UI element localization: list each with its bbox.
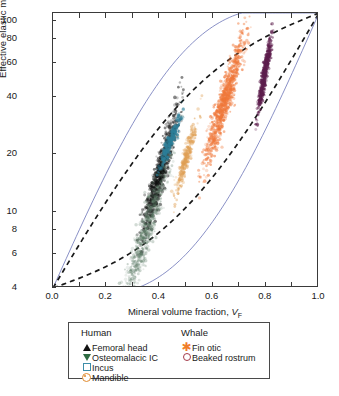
y-tick-mark [52,62,56,63]
legend-marker-triangle-up-icon [81,342,92,352]
y-tick-mark [52,211,56,212]
y-tick-mark [52,96,56,97]
y-tick-label: 80 [0,33,17,43]
x-tick-mark [158,282,159,287]
y-tick-label: 60 [0,57,17,67]
legend-item-incus[interactable]: Incus [81,362,114,372]
y-tick-label: 4 [0,282,17,292]
legend-item-osteomalacic-ic[interactable]: Osteomalacic IC [81,352,158,362]
legend-marker-open-diamond-icon [81,372,92,382]
x-axis-label: Mineral volume fraction, VF [52,306,318,319]
x-tick-mark [291,282,292,287]
y-tick-label: 100 [0,15,17,25]
x-tick-mark [79,282,80,287]
chart-figure: Effective elastic modulus, E (GPa) 46810… [0,0,339,396]
x-tick-mark [185,282,186,287]
x-tick-mark [238,282,239,287]
legend-group-title-human: Human [81,327,112,338]
legend-marker-triangle-down-icon [81,352,92,362]
legend-item-label: Beaked rostrum [192,353,256,363]
x-tick-mark [265,282,266,287]
legend-item-mandible[interactable]: Mandible [81,372,129,382]
y-tick-label: 10 [0,206,17,216]
x-tick-mark [212,282,213,287]
x-tick-label: 1.0 [298,290,338,301]
legend-marker-asterisk-icon: ✱ [181,342,192,352]
y-tick-mark [52,287,56,288]
plot-area [52,12,318,287]
x-tick-mark [105,282,106,287]
x-tick-mark [132,282,133,287]
x-tick-mark [79,13,80,18]
y-tick-label: 8 [0,224,17,234]
legend-group-title-whale: Whale [181,327,208,338]
legend-item-fin-otic[interactable]: ✱Fin otic [181,342,221,352]
y-tick-mark [52,229,56,230]
y-tick-mark [52,153,56,154]
x-tick-mark [158,13,159,18]
x-tick-mark [105,13,106,18]
x-tick-label: 0.6 [192,290,232,301]
legend-marker-open-circle-icon [181,352,192,362]
y-tick-mark [52,253,56,254]
scatter-series [254,22,274,131]
x-tick-mark [238,13,239,18]
y-tick-label: 6 [0,248,17,258]
y-tick-label: 20 [0,148,17,158]
legend-marker-open-square-icon [81,362,92,372]
x-tick-label: 0.8 [245,290,285,301]
y-tick-mark [52,20,56,21]
x-tick-mark [212,13,213,18]
plot-canvas [53,13,318,287]
x-tick-label: 0.2 [85,290,125,301]
legend-item-beaked-rostrum[interactable]: Beaked rostrum [181,352,256,362]
x-tick-mark [132,13,133,18]
legend-item-femoral-head[interactable]: Femoral head [81,342,148,352]
x-tick-mark [265,13,266,18]
x-tick-mark [185,13,186,18]
x-tick-mark [291,13,292,18]
y-tick-label: 40 [0,91,17,101]
legend-item-label: Mandible [92,373,129,383]
chart-legend: Human Whale Femoral headOsteomalacic ICI… [68,322,270,379]
x-tick-label: 0.4 [138,290,178,301]
y-tick-mark [52,38,56,39]
x-tick-label: 0.0 [32,290,72,301]
